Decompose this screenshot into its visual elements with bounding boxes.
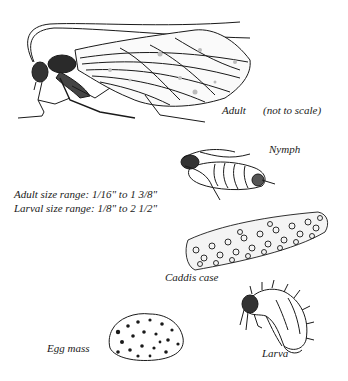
- adult-caddisfly-drawing: [18, 22, 250, 122]
- nymph-drawing: [181, 150, 275, 200]
- larval-size-range: Larval size range: 1/8" to 2 1/2": [14, 202, 157, 214]
- larva-drawing: [240, 280, 314, 353]
- egg-mass-label: Egg mass: [47, 342, 89, 354]
- nymph-label: Nymph: [269, 143, 300, 155]
- adult-label: Adult: [222, 104, 246, 116]
- adult-size-range: Adult size range: 1/16" to 1 3/8": [14, 188, 157, 200]
- egg-mass-drawing: [109, 314, 183, 361]
- not-to-scale-note: (not to scale): [263, 104, 321, 116]
- caddis-case-drawing: [186, 212, 328, 270]
- larva-label: Larva: [262, 347, 288, 359]
- caddis-case-label: Caddis case: [165, 271, 218, 283]
